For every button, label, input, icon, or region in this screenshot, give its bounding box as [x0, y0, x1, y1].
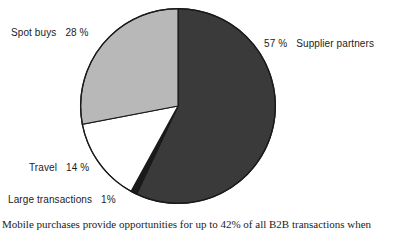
- slice-label-spot-buys-name: Spot buys: [11, 27, 56, 38]
- slice-label-supplier-partners: 57 %Supplier partners: [264, 38, 374, 50]
- pie-svg: [79, 7, 277, 205]
- slice-label-large-transactions-value: 1%: [101, 194, 116, 205]
- slice-label-supplier-partners-value: 57 %: [264, 38, 287, 49]
- slice-label-supplier-partners-name: Supplier partners: [296, 38, 374, 49]
- pie-chart-figure: Spot buys28 % 57 %Supplier partners Trav…: [0, 0, 403, 233]
- slice-label-large-transactions: Large transactions1%: [8, 194, 116, 206]
- pie-chart-graphic: [79, 7, 277, 205]
- slice-label-travel: Travel14 %: [29, 162, 89, 174]
- figure-caption: Mobile purchases provide opportunities f…: [2, 218, 402, 231]
- pie-slice-spot-buys: [81, 9, 178, 125]
- slice-label-travel-value: 14 %: [66, 162, 89, 173]
- slice-label-large-transactions-name: Large transactions: [8, 194, 92, 205]
- pie-slice-group: [81, 9, 276, 204]
- slice-label-spot-buys-value: 28 %: [65, 27, 88, 38]
- slice-label-spot-buys: Spot buys28 %: [11, 27, 89, 39]
- slice-label-travel-name: Travel: [29, 162, 57, 173]
